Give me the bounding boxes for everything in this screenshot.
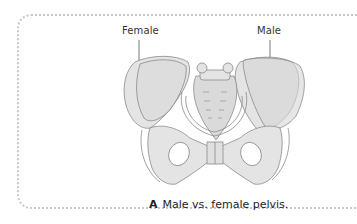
sacral-facet-left [197,63,207,73]
caption-letter: A [149,198,158,211]
caption-text: Male vs. female pelvis. [163,198,289,211]
left-ilium-male [137,60,187,121]
sacral-facet-right [223,63,233,73]
figure-caption: AMale vs. female pelvis. [149,198,288,211]
